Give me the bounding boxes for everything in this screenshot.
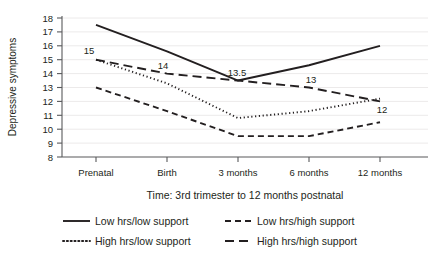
y-tick-label: 14 bbox=[42, 68, 53, 79]
y-tick-label: 9 bbox=[48, 138, 53, 149]
x-tick-label-birth: Birth bbox=[157, 167, 177, 178]
legend-label: High hrs/low support bbox=[95, 235, 191, 247]
x-tick-labels: Prenatal Birth 3 months 6 months 12 mont… bbox=[78, 167, 402, 178]
data-label-14: 14 bbox=[158, 60, 169, 71]
chart-legend: Low hrs/low support Low hrs/high support… bbox=[63, 215, 357, 247]
data-label-13: 13 bbox=[306, 74, 317, 85]
y-tick-labels: 18 17 16 15 14 13 12 11 10 9 8 bbox=[42, 13, 53, 163]
y-tick-label: 8 bbox=[48, 152, 53, 163]
x-tick-label-3-months: 3 months bbox=[218, 167, 257, 178]
x-tick-marks bbox=[96, 157, 380, 162]
line-chart: 18 17 16 15 14 13 12 11 10 9 8 Prenatal … bbox=[0, 0, 435, 257]
legend-label: Low hrs/low support bbox=[95, 215, 188, 227]
y-tick-label: 12 bbox=[42, 96, 53, 107]
y-tick-label: 18 bbox=[42, 13, 53, 24]
y-tick-label: 16 bbox=[42, 40, 53, 51]
gridlines bbox=[62, 18, 428, 143]
legend-label: High hrs/high support bbox=[257, 235, 357, 247]
legend-item-high-hrs-low-support[interactable]: High hrs/low support bbox=[63, 235, 191, 247]
legend-item-low-hrs-low-support[interactable]: Low hrs/low support bbox=[63, 215, 188, 227]
y-tick-label: 11 bbox=[43, 110, 53, 121]
y-axis-title: Depressive symptoms bbox=[7, 38, 18, 136]
chart-figure: 18 17 16 15 14 13 12 11 10 9 8 Prenatal … bbox=[0, 0, 435, 257]
y-tick-label: 10 bbox=[42, 124, 53, 135]
y-tick-label: 17 bbox=[42, 26, 53, 37]
x-tick-label-prenatal: Prenatal bbox=[78, 167, 113, 178]
legend-label: Low hrs/high support bbox=[257, 215, 355, 227]
data-label-12: 12 bbox=[377, 104, 388, 115]
x-axis-title: Time: 3rd trimester to 12 months postnat… bbox=[147, 189, 344, 201]
data-label-13-5: 13.5 bbox=[228, 67, 247, 78]
y-tick-marks bbox=[57, 18, 62, 157]
x-tick-label-6-months: 6 months bbox=[289, 167, 328, 178]
x-tick-label-12-months: 12 months bbox=[358, 167, 403, 178]
legend-item-low-hrs-high-support[interactable]: Low hrs/high support bbox=[225, 215, 355, 227]
data-label-15: 15 bbox=[84, 45, 95, 56]
y-tick-label: 13 bbox=[42, 82, 53, 93]
series-line-high-hrs-high-support bbox=[96, 60, 380, 102]
legend-item-high-hrs-high-support[interactable]: High hrs/high support bbox=[225, 235, 357, 247]
y-tick-label: 15 bbox=[42, 54, 53, 65]
